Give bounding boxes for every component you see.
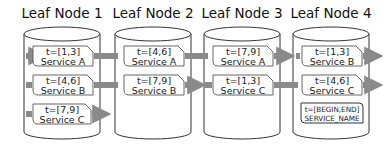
node-title-4: Leaf Node 4 — [290, 5, 371, 21]
node-4-entries: t=[1,3] Service B t=[4,6] Service C t=[B… — [301, 46, 363, 123]
service-box: t=[4,6] Service B — [33, 75, 93, 96]
service-box: t=[4,6] Service C — [302, 75, 362, 96]
leaf-node-diagram: Leaf Node 1 Leaf Node 2 Leaf Node 3 Leaf… — [0, 0, 388, 146]
service-box: t=[4,6] Service A — [124, 46, 184, 67]
node-title-1: Leaf Node 1 — [21, 5, 102, 21]
entry-service: Service B — [310, 56, 355, 67]
node-1-entries: t=[1,3] Service A t=[4,6] Service B t=[7… — [33, 46, 93, 125]
entry-service: Service A — [132, 56, 177, 67]
service-box: t=[1,3] Service A — [33, 46, 93, 67]
entry-service: Service C — [221, 85, 266, 96]
entry-service: Service C — [310, 85, 355, 96]
service-box: t=[7,9] Service A — [213, 46, 273, 67]
service-box: t=[7,9] Service B — [124, 75, 184, 96]
node-title-2: Leaf Node 2 — [112, 5, 193, 21]
legend-time-format: t=[BEGIN,END] — [305, 105, 360, 114]
service-box: t=[1,3] Service B — [302, 46, 362, 67]
entry-service: Service B — [132, 85, 177, 96]
entry-service: Service A — [41, 56, 86, 67]
service-box: t=[7,9] Service C — [33, 104, 91, 125]
legend-box: t=[BEGIN,END] SERVICE_NAME — [301, 103, 363, 123]
entry-service: Service B — [41, 85, 86, 96]
service-box: t=[1,3] Service C — [213, 75, 273, 96]
node-title-3: Leaf Node 3 — [201, 5, 282, 21]
entry-service: Service C — [40, 114, 85, 125]
legend-service-format: SERVICE_NAME — [305, 114, 360, 123]
entry-service: Service A — [221, 56, 266, 67]
